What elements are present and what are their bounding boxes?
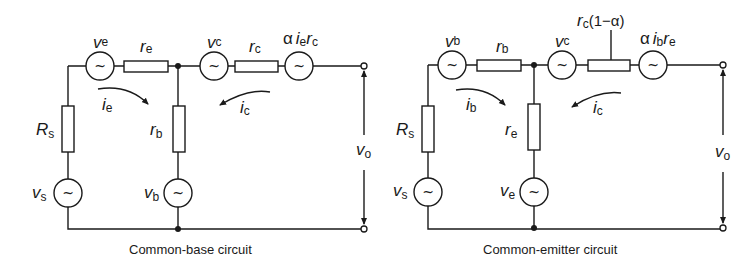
label-vo: vo: [356, 140, 372, 161]
common-base-circuit: ~ ~ ~ ~ ~: [32, 29, 372, 257]
vc-voltage-source: ~: [200, 52, 228, 80]
output-terminal-top: [361, 63, 367, 69]
label-vo: vo: [715, 142, 731, 163]
label-vc: vc: [555, 32, 570, 51]
ve-voltage-source: ~: [86, 52, 114, 80]
junction-dot: [531, 62, 537, 68]
label-vb: vb: [144, 183, 160, 204]
rc-1-minus-alpha-resistor: [588, 60, 630, 71]
label-re: re: [505, 120, 518, 141]
output-terminal-bottom: [720, 225, 726, 231]
label-vs: vs: [32, 183, 47, 204]
ac-source-icon: ~: [293, 58, 305, 74]
vb-voltage-source: ~: [164, 179, 192, 207]
ac-source-icon: ~: [94, 58, 106, 74]
ac-source-icon: ~: [556, 57, 568, 73]
left-and-bottom-wire: [68, 66, 361, 229]
label-rc: rc: [249, 37, 261, 56]
label-ib: ib: [466, 95, 477, 115]
ac-source-icon: ~: [208, 58, 220, 74]
Rs-resistor: [422, 106, 434, 152]
rc-resistor: [235, 61, 278, 72]
rb-resistor: [173, 106, 185, 152]
ac-source-icon: ~: [647, 57, 659, 73]
output-terminal-top: [720, 62, 726, 68]
label-re: re: [140, 37, 153, 56]
label-vc: vc: [207, 33, 222, 52]
vc-voltage-source: ~: [548, 51, 576, 79]
label-ve: ve: [93, 33, 109, 52]
re-resistor: [124, 61, 168, 72]
alpha-ib-re-source: ~: [639, 51, 667, 79]
ac-source-icon: ~: [422, 184, 434, 200]
label-ic: ic: [240, 98, 250, 118]
label-Rs: Rs: [396, 120, 414, 141]
circuit-diagrams: ~ ~ ~ ~ ~: [0, 0, 755, 269]
output-terminal-bottom: [361, 226, 367, 232]
ve-voltage-source: ~: [520, 178, 548, 206]
label-vb: vb: [445, 32, 461, 51]
junction-dot: [531, 225, 537, 231]
label-rb: rb: [150, 120, 163, 141]
vs-voltage-source: ~: [414, 178, 442, 206]
vs-voltage-source: ~: [54, 179, 82, 207]
vb-voltage-source: ~: [438, 51, 466, 79]
ic-current-arrow: [220, 91, 270, 105]
alpha-ie-rc-source: ~: [285, 52, 313, 80]
re-resistor: [528, 104, 540, 150]
label-ic: ic: [593, 98, 603, 118]
ac-source-icon: ~: [446, 57, 458, 73]
label-ie: ie: [102, 95, 113, 115]
label-alpha-ie-rc: αierc: [283, 29, 318, 49]
ac-source-icon: ~: [172, 185, 184, 201]
ac-source-icon: ~: [528, 184, 540, 200]
caption-common-base: Common-base circuit: [129, 242, 252, 257]
junction-dot: [175, 63, 181, 69]
label-vs: vs: [393, 181, 408, 202]
label-rb: rb: [496, 37, 509, 56]
ac-source-icon: ~: [62, 185, 74, 201]
label-alpha-ib-re: αibre: [640, 29, 676, 49]
rb-resistor: [477, 60, 521, 71]
Rs-resistor: [62, 106, 74, 152]
label-ve: ve: [500, 181, 516, 202]
label-rc-1-minus-alpha: rc(1−α): [577, 11, 624, 31]
junction-dot: [175, 226, 181, 232]
label-Rs: Rs: [36, 120, 54, 141]
common-emitter-circuit: ~ ~ ~ ~ ~ vb rb vc rc(1−α): [393, 11, 731, 257]
ib-current-arrow: [456, 89, 505, 105]
caption-common-emitter: Common-emitter circuit: [483, 242, 618, 257]
